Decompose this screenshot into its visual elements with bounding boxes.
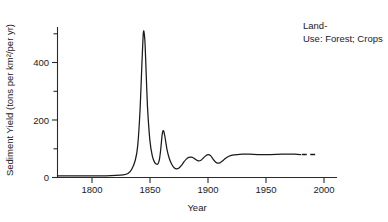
y-axis-title: Sediment Yield (tons per km²/per yr) (4, 24, 15, 176)
y-ticklabel-200: 200 (33, 115, 49, 126)
x-axis-ticks (92, 178, 324, 184)
x-ticklabel-1850: 1850 (139, 184, 160, 195)
y-ticklabel-0: 0 (44, 172, 49, 183)
annotation-line-2: Use: Forest; Crops (303, 33, 383, 44)
sediment-yield-chart: Sediment Yield (tons per km²/per yr) 0 2… (0, 0, 388, 222)
y-axis-ticks (52, 34, 58, 178)
x-ticklabel-1800: 1800 (81, 184, 102, 195)
annotation-line-1: Land- (303, 20, 327, 31)
x-axis-title: Year (187, 202, 206, 213)
y-ticklabel-400: 400 (33, 57, 49, 68)
data-line-sediment-yield (58, 31, 301, 176)
x-ticklabel-1900: 1900 (197, 184, 218, 195)
x-ticklabel-2000: 2000 (313, 184, 334, 195)
x-ticklabel-1950: 1950 (255, 184, 276, 195)
land-use-annotation: Land- Use: Forest; Crops (303, 20, 383, 44)
